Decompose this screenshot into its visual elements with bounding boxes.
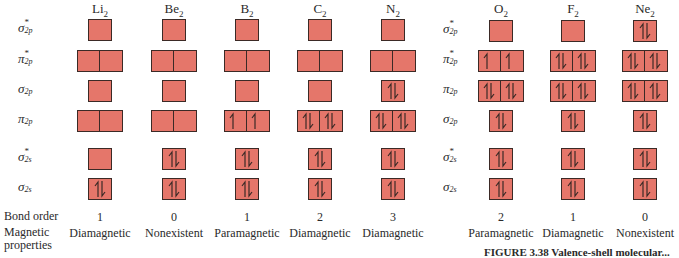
orbital-box	[319, 51, 340, 71]
orbital-label-pi_2p: π2p	[18, 111, 58, 127]
bond-order-value: 1	[207, 210, 287, 225]
orbital-sub: 2p	[24, 26, 32, 35]
orbital-sub: 2s	[449, 155, 456, 164]
molecule-subscript: 2	[650, 9, 655, 19]
orbital-label-sigma_star_2p: σ*2p	[443, 21, 483, 37]
orbital-box	[371, 51, 392, 71]
molecule-label: B2	[217, 1, 277, 19]
orbital-subscript: 2s	[449, 179, 463, 195]
orbital-box	[479, 51, 500, 71]
orbital-box	[382, 179, 403, 199]
orbital-sigma-2p	[633, 110, 657, 132]
paired-electrons-icon	[494, 150, 508, 168]
orbital-sigma-2p	[561, 110, 585, 132]
bond-order-value: 3	[353, 210, 433, 225]
molecule-subscript: 2	[322, 9, 327, 19]
orbital-box	[298, 51, 319, 71]
magnetic-value: Diamagnetic	[353, 226, 433, 241]
orbital-sub: 2p	[450, 87, 458, 96]
paired-electrons-icon	[648, 52, 662, 70]
magnetic-value: Paramagnetic	[461, 226, 541, 241]
paired-electrons-icon	[167, 180, 181, 198]
orbital-sigma-star-2p	[633, 20, 657, 42]
molecule-name: B	[240, 1, 249, 16]
magnetic-value: Diamagnetic	[533, 226, 613, 241]
paired-electrons-icon	[626, 52, 640, 70]
orbital-subscript: 2p	[449, 111, 463, 127]
orbital-box	[225, 51, 246, 71]
orbital-sigma-star-2s	[381, 148, 405, 170]
orbital-box	[562, 179, 583, 199]
orbital-subscript: 2p	[24, 81, 38, 97]
orbital-box	[644, 81, 665, 101]
paired-electrons-icon	[301, 112, 315, 130]
molecule-label: Li2	[70, 1, 130, 19]
molecule-name: Be	[165, 1, 179, 16]
orbital-pi-2p	[370, 110, 417, 132]
orbital-box	[382, 20, 403, 40]
bond-order-value: 2	[461, 210, 541, 225]
orbital-sigma-2s	[561, 178, 585, 200]
molecule-label: Ne2	[615, 1, 675, 19]
orbital-subscript: *2p	[449, 21, 463, 37]
orbital-pi-2p	[478, 80, 525, 102]
paired-electrons-icon	[494, 180, 508, 198]
orbital-sub: 2p	[25, 117, 33, 126]
orbital-box	[309, 81, 330, 101]
orbital-box	[309, 20, 330, 40]
orbital-box	[309, 149, 330, 169]
paired-electrons-icon	[93, 180, 107, 198]
orbital-sigma-2s	[381, 178, 405, 200]
orbital-box	[173, 111, 194, 131]
orbital-box	[490, 111, 511, 131]
orbital-pi-2p	[224, 110, 271, 132]
paired-electrons-icon	[638, 112, 652, 130]
paired-electrons-icon	[566, 180, 580, 198]
orbital-box	[152, 51, 173, 71]
orbital-sigma-2s	[88, 178, 112, 200]
molecule-subscript: 2	[395, 9, 400, 19]
orbital-box	[89, 179, 110, 199]
orbital-box	[392, 111, 413, 131]
orbital-label-sigma_2p: σ2p	[443, 111, 483, 127]
orbital-label-sigma_2p: σ2p	[18, 81, 58, 97]
orbital-box	[382, 81, 403, 101]
paired-electrons-icon	[554, 52, 568, 70]
molecule-name: C	[313, 1, 322, 16]
orbital-box	[500, 81, 521, 101]
molecule-label: F2	[543, 1, 603, 19]
orbital-sigma-2s	[162, 178, 186, 200]
orbital-box	[225, 111, 246, 131]
orbital-sigma-2p	[235, 80, 259, 102]
orbital-pi-2p	[77, 110, 124, 132]
orbital-sigma-star-2s	[489, 148, 513, 170]
paired-electrons-icon	[323, 112, 337, 130]
orbital-sigma-2s	[308, 178, 332, 200]
orbital-box	[89, 20, 110, 40]
unpaired-electron-icon	[504, 52, 518, 70]
orbital-sigma-star-2s	[308, 148, 332, 170]
orbital-pi-2p	[297, 110, 344, 132]
orbital-subscript: 2s	[24, 179, 38, 195]
orbital-sigma-2p	[162, 80, 186, 102]
orbital-pi-star-2p	[224, 50, 271, 72]
orbital-sigma-star-2s	[162, 148, 186, 170]
orbital-pi-2p	[550, 80, 597, 102]
orbital-subscript: *2p	[25, 51, 39, 67]
orbital-sigma-star-2p	[308, 19, 332, 41]
orbital-sigma-2p	[308, 80, 332, 102]
orbital-subscript: *2s	[24, 149, 38, 165]
paired-electrons-icon	[386, 150, 400, 168]
orbital-sigma-2s	[235, 178, 259, 200]
orbital-box	[623, 81, 644, 101]
orbital-box	[371, 111, 392, 131]
orbital-box	[236, 81, 257, 101]
paired-electrons-icon	[638, 150, 652, 168]
orbital-sigma-star-2p	[381, 19, 405, 41]
orbital-box	[236, 20, 257, 40]
orbital-subscript: *2p	[24, 20, 38, 36]
magnetic-value: Nonexistent	[605, 226, 679, 241]
orbital-sigma-star-2p	[561, 20, 585, 42]
molecule-subscript: 2	[249, 9, 254, 19]
orbital-sub: 2p	[449, 117, 457, 126]
